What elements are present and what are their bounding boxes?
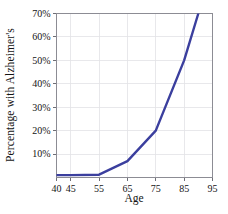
y-tick-label: 30% (32, 102, 50, 113)
x-axis-title: Age (56, 192, 212, 204)
y-tick-label: 50% (32, 55, 50, 66)
y-tick-label: 60% (32, 31, 50, 42)
y-tick-label: 40% (32, 78, 50, 89)
y-tick-label: 20% (32, 125, 50, 136)
alzheimers-prevalence-chart: Percentage with Alzheimer's 10%20%30%40%… (0, 0, 228, 214)
y-axis-ticks: 10%20%30%40%50%60%70% (32, 8, 56, 160)
y-tick-label: 70% (32, 8, 50, 19)
y-tick-label: 10% (32, 148, 50, 159)
plot-area: 10%20%30%40%50%60%70% 40455565758595 (0, 0, 228, 214)
